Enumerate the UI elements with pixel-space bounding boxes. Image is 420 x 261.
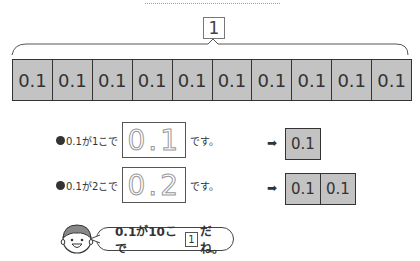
bar-cell: 0.1 xyxy=(213,60,253,100)
dotted-rule xyxy=(145,3,280,4)
bar-cell: 0.1 xyxy=(173,60,213,100)
bar-cell: 0.1 xyxy=(252,60,292,100)
bullet-icon xyxy=(56,136,65,145)
bar-cell: 0.1 xyxy=(93,60,133,100)
bar-cell: 0.1 xyxy=(292,60,332,100)
row-prefix: 0.1が1こで xyxy=(66,133,118,148)
result-bar-1: 0.1 xyxy=(285,128,321,160)
speech-boxed-answer: 1 xyxy=(185,232,198,247)
bar-cell: 0.1 xyxy=(53,60,93,100)
row-suffix: です。 xyxy=(190,133,219,148)
bullet-icon xyxy=(56,181,65,190)
curly-brace xyxy=(10,38,410,56)
speech-bubble: 0.1が10こで 1 だね。 xyxy=(96,227,234,251)
arrow-right-icon: ➡ xyxy=(267,181,277,195)
trace-answer-box[interactable]: 0.2 xyxy=(122,167,186,203)
bar-cell: 0.1 xyxy=(321,174,355,204)
bar-cell: 0.1 xyxy=(332,60,372,100)
whole-label-box: 1 xyxy=(203,17,225,39)
trace-answer-box[interactable]: 0.1 xyxy=(122,122,186,158)
speech-tail xyxy=(89,233,101,245)
decimal-bar-whole: 0.1 0.1 0.1 0.1 0.1 0.1 0.1 0.1 0.1 0.1 xyxy=(12,59,412,101)
exercise-row-2: 0.1が2こで 0.2 です。 xyxy=(56,165,219,205)
row-prefix: 0.1が2こで xyxy=(66,178,118,193)
bar-cell: 0.1 xyxy=(372,60,411,100)
bar-cell: 0.1 xyxy=(286,174,321,204)
bar-cell: 0.1 xyxy=(286,129,320,159)
speech-after: だね。 xyxy=(200,222,233,256)
exercise-row-1: 0.1が1こで 0.1 です。 xyxy=(56,120,219,160)
row-suffix: です。 xyxy=(190,178,219,193)
arrow-right-icon: ➡ xyxy=(267,136,277,150)
speech-before: 0.1が10こで xyxy=(115,222,183,256)
result-bar-2: 0.1 0.1 xyxy=(285,173,356,205)
bar-cell: 0.1 xyxy=(133,60,173,100)
bar-cell: 0.1 xyxy=(13,60,53,100)
